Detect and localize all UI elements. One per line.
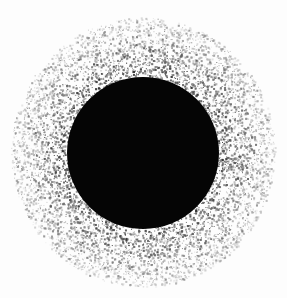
black-disc xyxy=(67,77,219,229)
image-canvas: black disc with speckled halo xyxy=(0,0,287,298)
